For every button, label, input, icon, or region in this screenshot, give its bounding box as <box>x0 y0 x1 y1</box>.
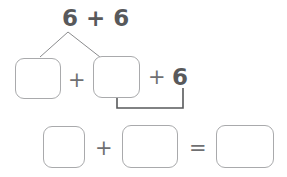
equation-plus-operator: + <box>95 138 113 159</box>
number-bond-left-branch-line <box>40 32 68 57</box>
regroup-plus-operator: + <box>148 67 166 88</box>
equation-left-box[interactable] <box>43 126 85 168</box>
equation-middle-box[interactable] <box>122 125 178 168</box>
number-bond-right-branch-line <box>68 32 100 57</box>
equation-result-box[interactable] <box>216 125 274 168</box>
top-expression-text: 6 + 6 <box>62 7 129 30</box>
number-bond-left-box[interactable] <box>15 58 61 99</box>
worksheet-canvas: 6 + 6 + + 6 + = <box>0 0 287 177</box>
regroup-addend-text: 6 <box>172 66 188 89</box>
number-bond-plus-operator: + <box>68 70 86 91</box>
number-bond-right-box[interactable] <box>93 56 140 98</box>
equation-equals-operator: = <box>189 138 207 159</box>
